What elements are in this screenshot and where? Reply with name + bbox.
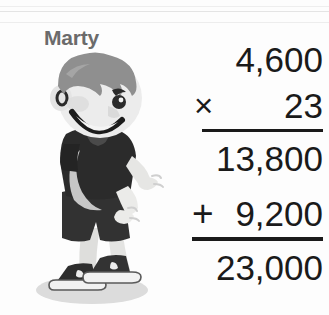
total-row: 23,000	[186, 244, 326, 290]
addition-rule	[192, 237, 323, 241]
multiply-sign: ×	[194, 89, 213, 122]
character-name-label: Marty	[44, 26, 99, 50]
multiplier-row: × 23	[186, 82, 326, 128]
character-illustration	[20, 52, 165, 310]
partial-product-1: 13,800	[216, 141, 326, 176]
partial-product-1-row: 13,800	[186, 135, 326, 181]
multiplication-rule	[202, 129, 323, 132]
multiplier: 23	[284, 88, 326, 123]
partial-product-2: 9,200	[235, 196, 326, 231]
multiplicand-row: 4,600	[186, 36, 326, 82]
scan-line-artifact	[0, 22, 329, 23]
row-spacer	[186, 181, 326, 190]
multiplicand: 4,600	[235, 42, 326, 77]
plus-sign: +	[192, 195, 214, 232]
partial-product-2-row: + 9,200	[186, 190, 326, 236]
worksheet-scene: Marty	[0, 0, 329, 315]
total: 23,000	[216, 250, 326, 285]
scan-line-artifact	[0, 6, 329, 7]
scan-line-artifact	[0, 11, 329, 12]
multiplication-problem: 4,600 × 23 13,800 + 9,200 23,000	[186, 36, 326, 290]
